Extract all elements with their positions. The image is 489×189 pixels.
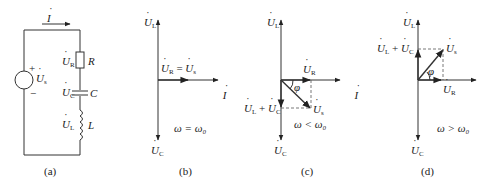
subscript: C bbox=[409, 48, 414, 56]
plus-sign: + bbox=[256, 102, 268, 114]
UR-label: U bbox=[443, 83, 451, 95]
phi-label: φ bbox=[294, 82, 300, 93]
subscript: s bbox=[321, 109, 324, 117]
subscript: L bbox=[275, 22, 279, 30]
UL-label: U bbox=[244, 102, 252, 114]
capacitor-name: C bbox=[90, 88, 97, 99]
subscript: L bbox=[411, 22, 415, 30]
UL-label: U bbox=[377, 42, 385, 54]
caption-a: (a) bbox=[44, 166, 56, 177]
subscript: s bbox=[44, 78, 47, 86]
condition-d: ω > ω₀ bbox=[437, 123, 469, 134]
current-label: I bbox=[47, 12, 51, 24]
I-axis-label: I bbox=[355, 89, 359, 101]
caption-d: (d) bbox=[421, 166, 434, 177]
UR-label: U bbox=[303, 63, 311, 75]
subscript: C bbox=[282, 150, 287, 158]
UL-label: U bbox=[403, 16, 411, 28]
resistor-name: R bbox=[88, 56, 95, 67]
subscript: R bbox=[451, 89, 456, 97]
equals-sign: = bbox=[174, 62, 186, 74]
subscript: R bbox=[70, 61, 75, 69]
condition-c: ω < ω₀ bbox=[294, 119, 326, 130]
plus-sign: + bbox=[29, 63, 35, 74]
UL-label: U bbox=[267, 16, 275, 28]
Us-label: U bbox=[446, 42, 454, 54]
subscript: C bbox=[419, 150, 424, 158]
subscript: s bbox=[454, 48, 457, 56]
subscript: C bbox=[159, 150, 164, 158]
capacitor-voltage-label: U bbox=[62, 86, 70, 98]
I-axis-label: I bbox=[223, 89, 227, 101]
subscript: L bbox=[152, 22, 156, 30]
minus-sign: − bbox=[30, 88, 36, 99]
UC-label: U bbox=[401, 42, 409, 54]
resistor-icon bbox=[76, 52, 84, 68]
UC-label: U bbox=[268, 102, 276, 114]
UC-label: U bbox=[151, 144, 159, 156]
Us-label: U bbox=[313, 103, 321, 115]
phi-label: φ bbox=[428, 66, 434, 77]
UC-label: U bbox=[274, 144, 282, 156]
subscript: s bbox=[193, 68, 196, 76]
subscript: R bbox=[311, 69, 316, 77]
circuit-a bbox=[15, 24, 90, 155]
inductor-name: L bbox=[88, 120, 94, 131]
UR-label: U bbox=[161, 62, 169, 74]
subscript: C bbox=[276, 108, 281, 116]
inductor-voltage-label: U bbox=[62, 118, 70, 130]
UC-label: U bbox=[411, 144, 419, 156]
condition-b: ω = ω₀ bbox=[174, 123, 206, 134]
subscript: L bbox=[70, 124, 74, 132]
Us-label: U bbox=[185, 62, 193, 74]
caption-b: (b) bbox=[179, 166, 192, 177]
UL-label: U bbox=[144, 16, 152, 28]
subscript: C bbox=[70, 92, 75, 100]
source-voltage-label: U bbox=[36, 72, 44, 84]
caption-c: (c) bbox=[301, 166, 313, 177]
resistor-voltage-label: U bbox=[62, 55, 70, 67]
plus-sign: + bbox=[389, 42, 401, 54]
